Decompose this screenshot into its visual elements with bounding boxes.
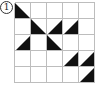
filled-triangle [79, 67, 95, 83]
filled-triangle [47, 19, 63, 35]
filled-triangle [15, 3, 31, 19]
filled-triangle [63, 51, 79, 67]
filled-triangle [47, 35, 63, 51]
filled-triangle [15, 35, 31, 51]
filled-triangle [31, 19, 47, 35]
filled-triangle [63, 19, 79, 35]
filled-triangle [79, 51, 95, 67]
triangle-grid [0, 0, 95, 86]
